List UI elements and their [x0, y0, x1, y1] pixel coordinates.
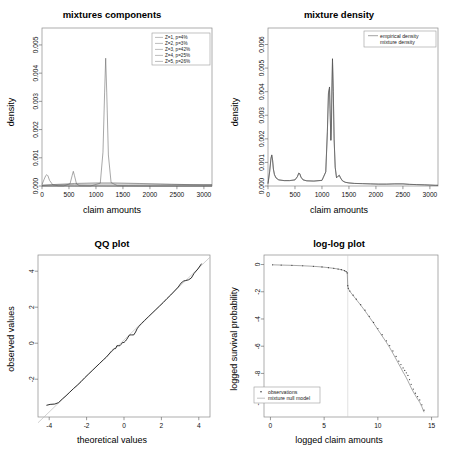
svg-text:1500: 1500: [116, 191, 131, 198]
svg-text:0.003: 0.003: [32, 93, 39, 110]
figure-grid: mixtures components claim amounts densit…: [0, 0, 449, 459]
observation-point: [328, 267, 329, 268]
observation-point: [377, 328, 378, 329]
svg-text:0.004: 0.004: [32, 65, 39, 82]
observation-point: [281, 264, 282, 265]
x-axis-label: claim amounts: [83, 205, 142, 215]
svg-text:0.000: 0.000: [258, 177, 265, 194]
legend-label: Z=2, p=3%: [165, 41, 187, 46]
svg-text:5: 5: [322, 422, 326, 429]
observation-point: [302, 265, 303, 266]
observation-point: [407, 375, 408, 376]
observation-point: [402, 367, 403, 368]
svg-text:0.001: 0.001: [32, 149, 39, 166]
observation-point: [321, 266, 322, 267]
svg-text:2500: 2500: [170, 191, 185, 198]
observation-point: [409, 379, 410, 380]
svg-text:-8: -8: [254, 370, 261, 376]
svg-text:0.002: 0.002: [32, 121, 39, 138]
observation-point: [386, 340, 387, 341]
y-axis-label: observed values: [6, 306, 16, 372]
legend-label: mixture null model: [268, 395, 310, 401]
mixture-density-curve: [268, 61, 438, 186]
observation-point: [291, 265, 292, 266]
observation-point: [398, 361, 399, 362]
observation-point: [373, 322, 374, 323]
observation-point: [413, 388, 414, 389]
svg-text:1500: 1500: [342, 191, 357, 198]
observation-point: [356, 299, 357, 300]
density-curve: [42, 184, 212, 185]
observation-point: [423, 410, 424, 411]
empirical-density-curve: [268, 59, 438, 186]
panel-title: mixture density: [304, 9, 375, 20]
panel-mixture-density: mixture density claim amounts density 05…: [224, 0, 449, 229]
svg-text:15: 15: [428, 422, 436, 429]
legend-label: Z=3, p=42%: [165, 47, 190, 52]
svg-text:3000: 3000: [423, 191, 438, 198]
mixture-density-svg: mixture density claim amounts density 05…: [224, 0, 449, 229]
svg-text:2: 2: [160, 422, 164, 429]
observation-point: [417, 396, 418, 397]
svg-text:0: 0: [28, 341, 35, 345]
legend-label: observations: [268, 389, 298, 395]
x-axis-label: claim amounts: [310, 205, 369, 215]
legend: empirical densitymixture density: [364, 31, 436, 47]
svg-text:-6: -6: [254, 343, 261, 349]
observation-point: [333, 268, 334, 269]
observation-point: [419, 399, 420, 400]
svg-text:-4: -4: [46, 422, 52, 429]
observation-point: [272, 264, 273, 265]
observation-point: [346, 271, 347, 272]
svg-text:-2: -2: [254, 288, 261, 294]
panel-log-log-plot: log-log plot logged claim amounts logged…: [224, 229, 449, 459]
svg-text:2000: 2000: [369, 191, 384, 198]
legend: Z=1, p=4%Z=2, p=3%Z=3, p=42%Z=4, p=25%Z=…: [152, 33, 210, 65]
svg-text:0: 0: [269, 422, 273, 429]
observation-point: [404, 370, 405, 371]
observation-point: [349, 290, 350, 291]
observation-point: [392, 350, 393, 351]
observation-point: [348, 288, 349, 289]
x-axis-label: logged claim amounts: [295, 435, 383, 445]
svg-text:0.005: 0.005: [258, 60, 265, 77]
panel-qq-plot: QQ plot theoretical values observed valu…: [0, 229, 225, 459]
observation-point: [364, 310, 365, 311]
svg-text:4: 4: [28, 269, 35, 273]
y-axis-label: density: [230, 97, 240, 126]
legend-label: Z=1, p=4%: [165, 35, 187, 40]
observation-point: [411, 384, 412, 385]
observation-point: [421, 404, 422, 405]
panel-mixtures-components: mixtures components claim amounts densit…: [0, 0, 225, 229]
svg-text:0.001: 0.001: [258, 154, 265, 171]
plot-area: 0500100015002000250030000.0000.0010.0020…: [258, 28, 438, 198]
svg-text:2: 2: [28, 305, 35, 309]
svg-text:-4: -4: [254, 316, 261, 322]
panel-title: mixtures components: [63, 9, 162, 20]
y-axis-label: logged survival probability: [229, 287, 239, 391]
svg-text:-2: -2: [84, 422, 90, 429]
observation-point: [347, 285, 348, 286]
panel-title: QQ plot: [95, 238, 131, 249]
observation-point: [341, 269, 342, 270]
observation-point: [400, 364, 401, 365]
density-curve: [42, 58, 212, 186]
svg-text:0: 0: [122, 422, 126, 429]
qq-plot-svg: QQ plot theoretical values observed valu…: [0, 229, 225, 459]
log-log-plot-svg: log-log plot logged claim amounts logged…: [224, 229, 449, 459]
observation-point: [382, 334, 383, 335]
legend-label: Z=4, p=25%: [165, 53, 190, 58]
svg-text:0: 0: [254, 262, 261, 266]
svg-text:0.000: 0.000: [32, 177, 39, 194]
qq-points: [46, 264, 201, 406]
svg-text:0.002: 0.002: [258, 130, 265, 147]
observation-point: [389, 345, 390, 346]
svg-text:0.003: 0.003: [258, 107, 265, 124]
svg-text:3000: 3000: [197, 191, 212, 198]
svg-text:500: 500: [289, 191, 300, 198]
svg-text:0.004: 0.004: [258, 83, 265, 100]
legend-label: empirical density: [380, 33, 419, 39]
svg-text:1000: 1000: [89, 191, 104, 198]
observation-point: [406, 372, 407, 373]
svg-text:2000: 2000: [143, 191, 158, 198]
